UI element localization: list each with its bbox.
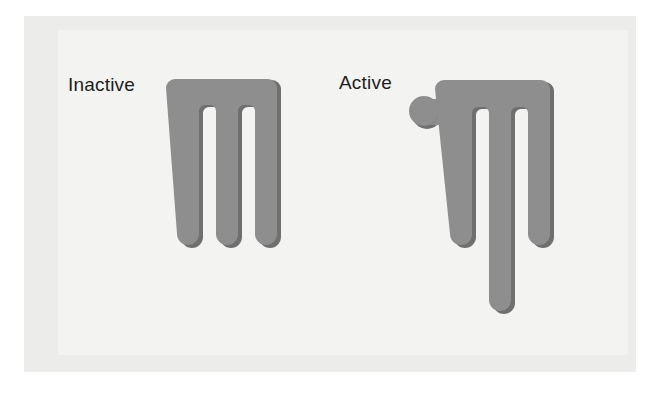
active-receptor-shape xyxy=(409,80,554,314)
inactive-receptor-shape xyxy=(166,79,281,248)
figure-page: Inactive Active xyxy=(0,0,660,405)
active-receptor-body xyxy=(435,80,550,311)
receptor-diagram xyxy=(0,0,660,405)
inactive-receptor-body xyxy=(166,79,277,245)
